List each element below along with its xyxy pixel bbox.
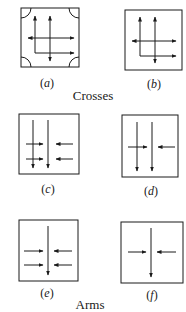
panel-d-frame	[122, 115, 178, 177]
panel-f-label: (f)	[146, 288, 157, 303]
corner-arc-icon	[21, 57, 31, 67]
panel-b	[125, 10, 182, 70]
panel-f	[121, 222, 183, 283]
panel-c-label: (c)	[41, 182, 54, 197]
corner-arc-icon	[21, 8, 31, 18]
panel-a	[21, 8, 79, 67]
panel-c	[19, 114, 79, 174]
panel-d	[122, 115, 178, 177]
arms-caption: Arms	[76, 297, 105, 312]
panel-a-label: (a)	[40, 76, 54, 91]
corner-arc-icon	[69, 8, 79, 18]
panel-e-label: (e)	[40, 286, 53, 301]
crosses-caption: Crosses	[73, 88, 113, 104]
panel-b-frame	[125, 10, 182, 70]
diagram-canvas	[0, 0, 186, 312]
corner-arc-icon	[69, 57, 79, 67]
panel-e	[19, 220, 78, 281]
panel-b-label: (b)	[147, 77, 161, 92]
panel-d-label: (d)	[144, 184, 158, 199]
